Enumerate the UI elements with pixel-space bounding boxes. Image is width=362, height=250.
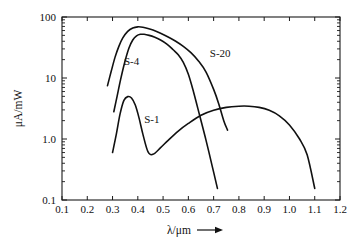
y-tick-label: 0.1 (42, 194, 56, 206)
x-tick-label: 0.7 (207, 203, 221, 215)
curve-labels: S-20S-4S-1 (124, 47, 231, 125)
curve-label-s-1: S-1 (144, 113, 159, 125)
x-axis-ticks (62, 17, 340, 200)
y-axis-title: μA/mW (12, 90, 25, 128)
plot-frame-rect (62, 17, 340, 200)
x-axis-title: λ/μm (167, 224, 191, 237)
curve-label-s-20: S-20 (210, 47, 231, 59)
plot-frame (62, 17, 340, 200)
y-tick-label: 1.0 (42, 133, 56, 145)
y-axis-ticks (62, 17, 340, 200)
x-tick-label: 0.4 (131, 203, 145, 215)
chart-page: 0.10.20.30.40.50.60.70.80.91.01.11.2 0.1… (0, 0, 362, 250)
x-tick-label: 1.2 (333, 203, 347, 215)
y-axis-tick-labels: 0.11.010100 (40, 11, 57, 206)
x-axis-arrowhead-icon (215, 227, 223, 233)
x-tick-label: 0.2 (80, 203, 94, 215)
photocathode-response-chart: 0.10.20.30.40.50.60.70.80.91.01.11.2 0.1… (0, 0, 362, 250)
x-tick-label: 0.8 (232, 203, 246, 215)
y-tick-label: 10 (45, 72, 57, 84)
x-tick-label: 0.1 (55, 203, 69, 215)
x-tick-label: 0.9 (257, 203, 271, 215)
x-axis-tick-labels: 0.10.20.30.40.50.60.70.80.91.01.11.2 (55, 203, 347, 215)
x-tick-label: 0.3 (106, 203, 120, 215)
y-tick-label: 100 (40, 11, 57, 23)
x-tick-label: 0.5 (156, 203, 170, 215)
curve-s-20 (107, 27, 227, 130)
x-tick-label: 1.0 (283, 203, 297, 215)
x-tick-label: 0.6 (181, 203, 195, 215)
x-tick-label: 1.1 (308, 203, 322, 215)
curve-label-s-4: S-4 (124, 55, 140, 67)
